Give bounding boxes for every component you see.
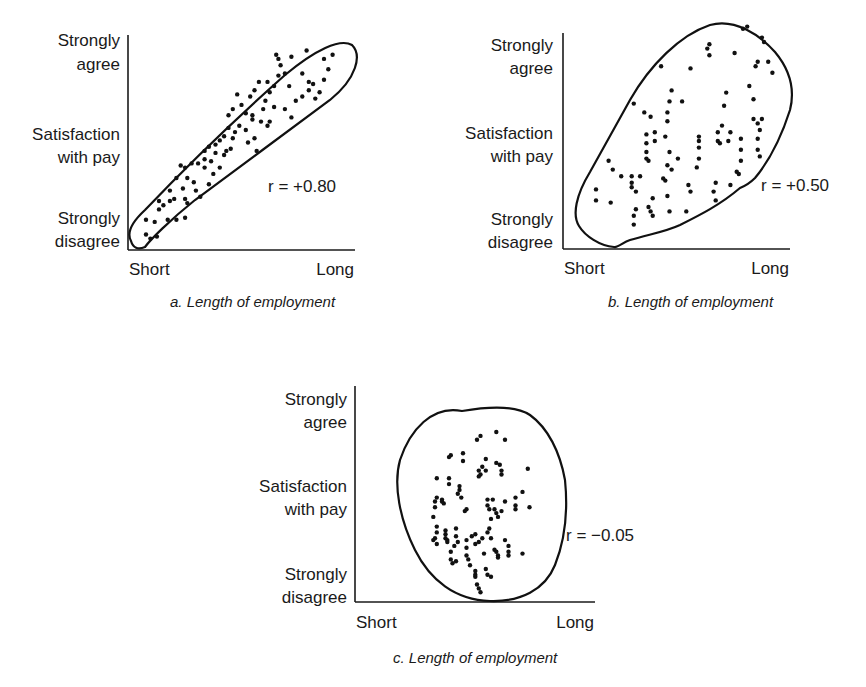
scatter-point [231,136,235,140]
scatter-point [638,174,642,178]
x-tick-short: Short [564,259,605,278]
scatter-point [739,137,743,141]
scatter-point [161,203,165,207]
scatter-point [646,159,650,163]
scatter-point [307,88,311,92]
scatter-point [263,99,267,103]
scatter-point [756,148,760,152]
scatter-point [697,139,701,143]
scatter-point [300,94,304,98]
scatter-point [447,482,451,486]
scatter-point [487,507,491,511]
scatter-point [181,186,185,190]
scatter-point [741,27,745,31]
scatter-point [454,559,458,563]
scatter-points [594,24,775,226]
scatter-point [646,205,650,209]
y-label-mid-line2: with pay [284,500,348,519]
scatter-point [311,82,315,86]
scatter-point [503,538,507,542]
scatter-point [475,438,479,442]
scatter-point [157,207,161,211]
scatter-point [503,499,507,503]
scatter-point [272,84,276,88]
scatter-point [724,90,728,94]
scatter-point [659,64,663,68]
scatter-point [491,497,495,501]
scatter-point [447,455,451,459]
scatter-point [454,534,458,538]
correlation-figure: Strongly agree Satisfaction with pay Str… [0,0,866,687]
scatter-point [632,222,636,226]
scatter-point [443,532,447,536]
scatter-points [431,430,532,595]
scatter-point [680,99,684,103]
scatter-point [202,165,206,169]
correlation-annotation: r = −0.05 [566,526,634,545]
scatter-point [663,134,667,138]
scatter-point [435,495,439,499]
scatter-point [244,111,248,115]
scatter-point [442,501,446,505]
scatter-point [506,550,510,554]
scatter-point [202,157,206,161]
scatter-point [688,189,692,193]
scatter-point [594,187,598,191]
panel-a: Strongly agree Satisfaction with pay Str… [32,31,357,310]
scatter-point [433,499,437,503]
scatter-point [686,183,690,187]
scatter-point [213,142,217,146]
scatter-point [697,134,701,138]
scatter-point [213,151,217,155]
y-label-top-line1: Strongly [491,36,554,55]
scatter-point [431,515,435,519]
scatter-point [276,73,280,77]
scatter-point [480,465,484,469]
scatter-point [496,555,500,559]
scatter-point [468,563,472,567]
scatter-point [229,147,233,151]
scatter-point [259,119,263,123]
scatter-point [478,434,482,438]
y-label-top-line2: agree [77,55,120,74]
scatter-point [732,51,736,55]
scatter-point [250,117,254,121]
scatter-point [144,232,148,236]
scatter-point [222,134,226,138]
data-envelope [129,43,357,248]
scatter-point [711,189,715,193]
data-envelope [576,23,792,247]
scatter-point [447,476,451,480]
scatter-point [762,40,766,44]
scatter-point [494,430,498,434]
scatter-point [722,104,726,108]
scatter-point [148,236,152,240]
scatter-point [179,163,183,167]
y-label-top-line2: agree [304,413,347,432]
scatter-point [153,220,157,224]
scatter-point [322,57,326,61]
scatter-point [489,536,493,540]
scatter-point [449,557,453,561]
scatter-point [482,551,486,555]
scatter-point [283,107,287,111]
scatter-point [644,150,648,154]
scatter-point [676,156,680,160]
panel-caption: a. Length of employment [170,293,336,310]
scatter-point [166,218,170,222]
scatter-point [300,71,304,75]
y-label-mid-line2: with pay [490,147,554,166]
scatter-point [756,137,760,141]
scatter-point [250,113,254,117]
y-label-bottom-line2: disagree [282,588,347,607]
scatter-point [707,53,711,57]
scatter-point [480,536,484,540]
scatter-point [449,550,453,554]
scatter-points [144,48,335,241]
scatter-point [237,124,241,128]
scatter-point [513,495,517,499]
y-label-bottom-line2: disagree [55,232,120,251]
scatter-point [464,538,468,542]
x-tick-long: Long [751,259,789,278]
scatter-point [707,42,711,46]
